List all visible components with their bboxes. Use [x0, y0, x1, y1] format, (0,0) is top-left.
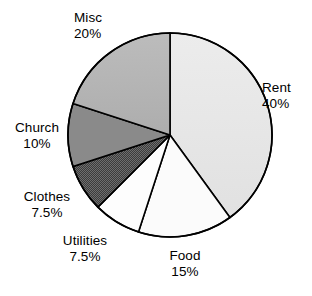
- slice-label-clothes-name: Clothes: [14, 189, 80, 205]
- slice-label-food-name: Food: [154, 248, 216, 264]
- slice-label-rent-value: 40%: [262, 96, 310, 112]
- slice-label-clothes: Clothes 7.5%: [14, 189, 80, 221]
- slice-label-utilities-value: 7.5%: [48, 249, 122, 265]
- pie-chart-figure: Misc 20% Rent 40% Church 10% Clothes 7.5…: [0, 0, 312, 296]
- slice-label-rent-name: Rent: [262, 80, 310, 96]
- slice-label-food-value: 15%: [154, 264, 216, 280]
- slice-label-church-name: Church: [4, 120, 70, 136]
- slice-label-church-value: 10%: [4, 136, 70, 152]
- slice-label-clothes-value: 7.5%: [14, 205, 80, 221]
- slice-label-misc: Misc 20%: [68, 10, 134, 42]
- slice-label-utilities: Utilities 7.5%: [48, 233, 122, 265]
- slice-label-church: Church 10%: [4, 120, 70, 152]
- slice-label-misc-name: Misc: [74, 10, 134, 26]
- slice-label-rent: Rent 40%: [262, 80, 310, 112]
- slice-label-misc-value: 20%: [74, 26, 134, 42]
- pie-slices-group: [68, 33, 272, 237]
- slice-label-utilities-name: Utilities: [48, 233, 122, 249]
- slice-label-food: Food 15%: [154, 248, 216, 280]
